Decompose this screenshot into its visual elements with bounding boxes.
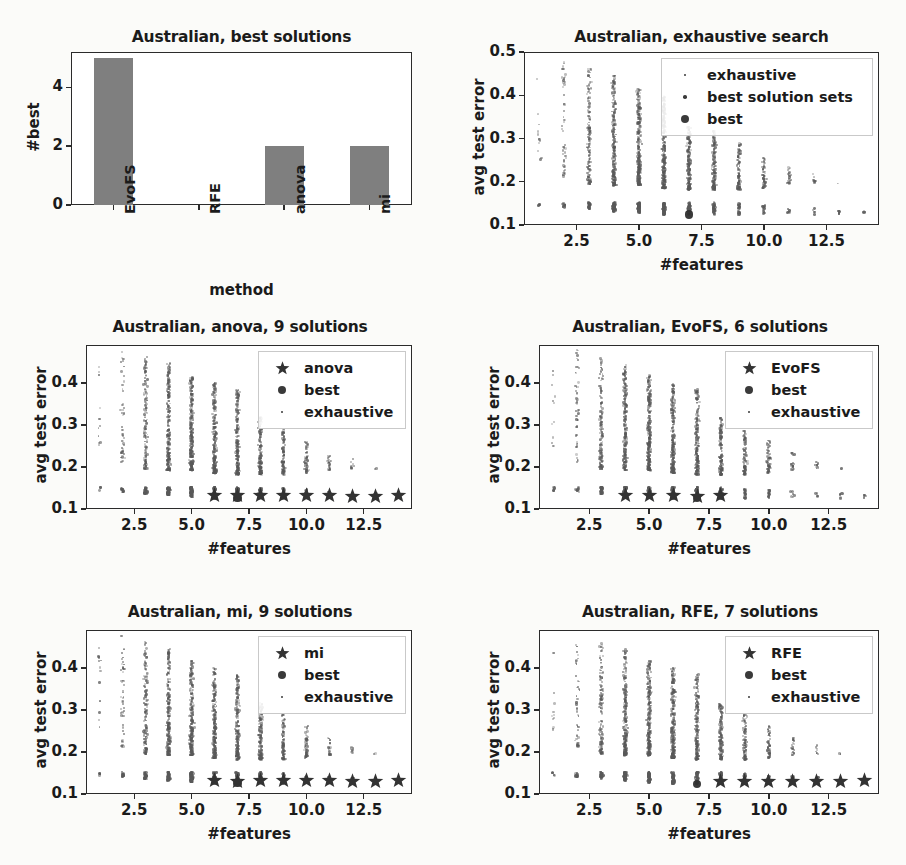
scatter-point xyxy=(647,704,650,707)
y-tick-mark xyxy=(534,424,539,425)
scatter-point xyxy=(696,419,699,422)
scatter-point xyxy=(236,392,238,394)
scatter-point xyxy=(745,473,747,475)
scatter-point xyxy=(600,686,602,688)
y-tick-mark xyxy=(81,508,86,509)
x-tick-mark xyxy=(134,509,135,514)
scatter-point xyxy=(144,415,146,417)
legend-label: best xyxy=(304,667,340,683)
scatter-point xyxy=(260,756,263,759)
x-tick-mark xyxy=(828,509,829,514)
scatter-point xyxy=(744,736,747,739)
scatter-point xyxy=(236,406,238,408)
scatter-point xyxy=(121,450,123,452)
scatter-point xyxy=(98,427,100,429)
legend-marker-large-dot xyxy=(735,671,763,679)
scatter-point xyxy=(282,731,284,733)
scatter-point xyxy=(577,386,579,388)
scatter-point xyxy=(624,776,627,779)
scatter-point xyxy=(551,442,553,444)
scatter-point xyxy=(552,652,554,654)
scatter-point xyxy=(672,385,674,387)
scatter-point xyxy=(121,658,123,660)
scatter-point xyxy=(329,739,331,741)
scatter-point xyxy=(674,453,676,455)
panel-title: Australian, RFE, 7 solutions xyxy=(515,603,885,621)
scatter-point xyxy=(601,733,603,735)
scatter-point xyxy=(839,493,842,496)
scatter-point xyxy=(698,401,701,404)
scatter-point xyxy=(168,681,170,683)
scatter-point xyxy=(624,401,626,403)
method-star-marker xyxy=(229,773,246,790)
scatter-point xyxy=(190,461,192,463)
scatter-point xyxy=(122,390,124,392)
scatter-point xyxy=(576,707,578,709)
scatter-point xyxy=(647,469,650,472)
scatter-point xyxy=(672,467,674,469)
scatter-point xyxy=(575,675,577,677)
scatter-point xyxy=(578,367,580,369)
scatter-point xyxy=(122,671,124,673)
scatter-point xyxy=(698,703,700,705)
scatter-point xyxy=(696,431,699,434)
scatter-point xyxy=(600,435,603,438)
legend-dot xyxy=(745,671,753,679)
scatter-point xyxy=(671,415,673,417)
scatter-point xyxy=(552,370,555,373)
scatter-point xyxy=(696,390,698,392)
scatter-point xyxy=(214,668,216,670)
scatter-point xyxy=(599,462,601,464)
scatter-point xyxy=(213,713,216,716)
scatter-point xyxy=(120,745,123,748)
scatter-point xyxy=(122,692,124,694)
x-tick-mark xyxy=(708,509,709,514)
scatter-point xyxy=(122,730,124,732)
scatter-point xyxy=(599,357,602,360)
scatter-point xyxy=(647,461,650,464)
scatter-point xyxy=(742,430,745,433)
scatter-point xyxy=(575,446,577,448)
scatter-point xyxy=(745,744,747,746)
x-axis-label: #features xyxy=(539,825,879,843)
scatter-point xyxy=(648,780,651,783)
scatter-point xyxy=(213,457,216,460)
scatter-point xyxy=(675,411,677,413)
scatter-point xyxy=(169,695,171,697)
scatter-point xyxy=(671,439,673,441)
scatter-point xyxy=(576,710,579,713)
scatter-point xyxy=(190,434,193,437)
scatter-point xyxy=(237,684,240,687)
scatter-point xyxy=(191,424,193,426)
scatter-point xyxy=(673,692,675,694)
scatter-point xyxy=(350,466,352,468)
scatter-point xyxy=(123,649,125,651)
scatter-point xyxy=(237,741,239,743)
scatter-point xyxy=(169,689,171,691)
x-tick-label: 10.0 xyxy=(276,801,336,819)
scatter-point xyxy=(99,407,101,409)
scatter-point xyxy=(193,678,195,680)
scatter-point xyxy=(190,709,193,712)
scatter-point xyxy=(697,409,699,411)
scatter-point xyxy=(145,747,147,749)
scatter-point xyxy=(167,382,169,384)
scatter-point xyxy=(600,410,602,412)
scatter-point xyxy=(98,418,101,421)
scatter-point xyxy=(189,754,191,756)
y-tick-mark xyxy=(534,667,539,668)
scatter-point xyxy=(575,701,578,704)
scatter-point xyxy=(551,423,553,425)
scatter-point xyxy=(212,690,214,692)
legend-label: anova xyxy=(304,360,353,376)
scatter-point xyxy=(261,467,264,470)
scatter-point xyxy=(306,459,308,461)
legend-item: best xyxy=(735,379,807,401)
scatter-point xyxy=(215,439,217,441)
x-tick-label: 5.0 xyxy=(619,516,679,534)
method-star-marker xyxy=(321,487,338,504)
x-tick-label: 2.5 xyxy=(104,516,164,534)
scatter-point xyxy=(99,666,101,668)
scatter-point xyxy=(697,709,699,711)
method-star-marker xyxy=(736,773,753,790)
